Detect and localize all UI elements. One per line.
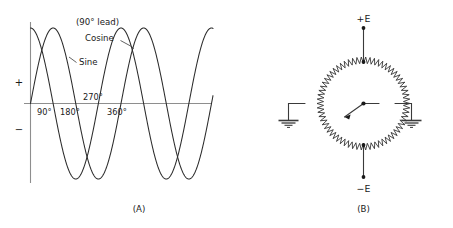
panel-a-group: + − (90° lead) Cosine Sine 90° 180° 270°… — [15, 17, 213, 214]
wiper-arm-diagonal — [345, 104, 364, 118]
degree-tick-90: 90° — [37, 107, 52, 117]
positive-terminal-label: +E — [357, 13, 371, 24]
sine-leader-line — [69, 57, 77, 63]
axis-negative-marker: − — [15, 124, 23, 135]
wiper-hub — [361, 101, 365, 105]
right-tap-lead — [395, 104, 412, 121]
degree-tick-360: 360° — [107, 107, 127, 117]
sine-label: Sine — [79, 57, 98, 67]
positive-terminal-node — [362, 60, 366, 64]
positive-terminal-endpoint — [362, 26, 366, 30]
ground-symbol-left — [279, 121, 299, 128]
left-tap-lead — [289, 104, 306, 121]
negative-terminal-label: −E — [357, 183, 371, 194]
panel-a-caption: (A) — [133, 204, 146, 214]
degree-tick-270: 270° — [83, 92, 103, 102]
axis-positive-marker: + — [15, 77, 23, 88]
negative-terminal-endpoint — [362, 175, 366, 179]
degree-tick-180: 180° — [60, 107, 80, 117]
cosine-label: Cosine — [85, 33, 114, 43]
figure-root: + − (90° lead) Cosine Sine 90° 180° 270°… — [0, 0, 453, 228]
panel-b-group: +E −E (B) — [279, 13, 422, 214]
negative-terminal-node — [362, 143, 366, 147]
figure-canvas: + − (90° lead) Cosine Sine 90° 180° 270°… — [0, 0, 453, 228]
panel-b-caption: (B) — [357, 204, 370, 214]
lead-note-label: (90° lead) — [76, 17, 119, 27]
